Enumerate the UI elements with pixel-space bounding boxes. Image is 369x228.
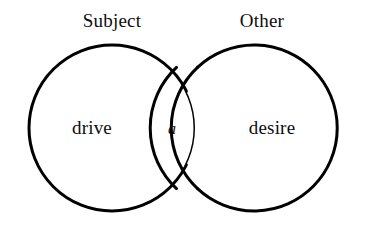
label-other: Other [212,10,312,32]
label-desire: desire [222,117,322,139]
label-objet-a: a [158,120,186,138]
label-drive: drive [42,117,142,139]
venn-diagram-svg [0,0,369,228]
venn-diagram-figure: Subject Other drive desire a [0,0,369,228]
label-subject: Subject [52,10,172,32]
